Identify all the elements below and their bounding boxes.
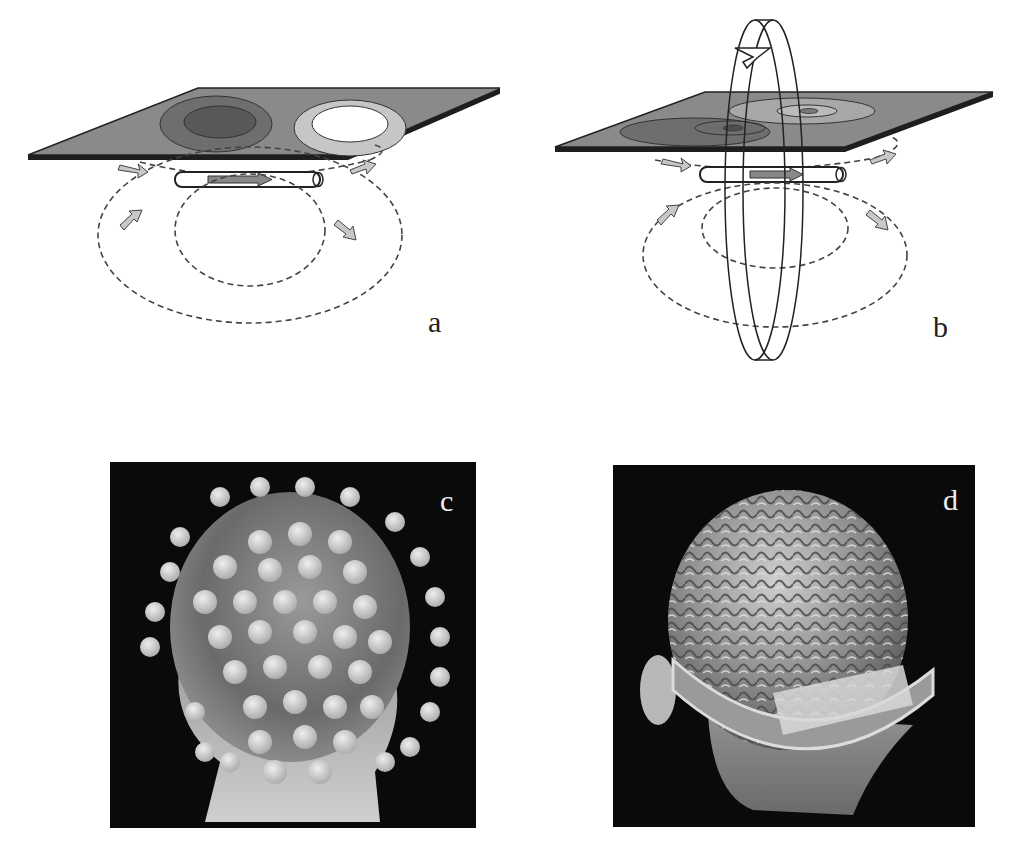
panel-label-c: c (440, 484, 453, 518)
panel-c: c (110, 462, 476, 828)
eeg-head-model (110, 462, 476, 828)
panel-label-d: d (943, 483, 958, 517)
panel-label-a: a (428, 305, 441, 339)
panel-label-b: b (933, 310, 948, 344)
panel-d: d (613, 465, 975, 827)
panel-a: a (20, 60, 500, 360)
brain-cortex-rendering (613, 465, 975, 827)
panel-b: b (545, 10, 1005, 390)
